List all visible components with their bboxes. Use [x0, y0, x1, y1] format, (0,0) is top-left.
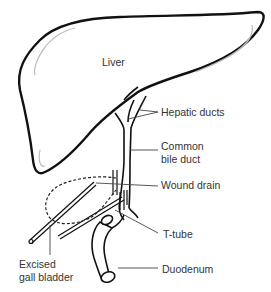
liver-label: Liver	[102, 56, 125, 69]
excised-gall-bladder-label-line1: Excised	[19, 258, 56, 271]
common-bile-duct-label-line2: bile duct	[161, 153, 200, 166]
excised-gall-bladder-label-line2: gall bladder	[19, 271, 73, 284]
duodenum	[92, 214, 124, 285]
t-tube-label: T-tube	[163, 228, 193, 241]
common-bile-duct-label-line1: Common	[161, 140, 204, 153]
t-tube	[58, 190, 127, 239]
liver	[19, 12, 264, 173]
hepatic-ducts-label: Hepatic ducts	[161, 106, 225, 119]
biliary-anatomy-diagram	[0, 0, 271, 292]
wound-drain-label: Wound drain	[161, 179, 220, 192]
duodenum-label: Duodenum	[162, 263, 213, 276]
